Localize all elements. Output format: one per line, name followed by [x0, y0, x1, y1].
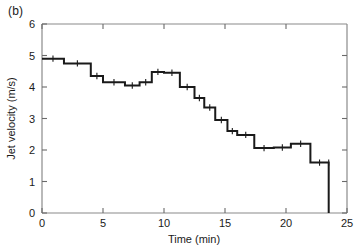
axes-frame [42, 24, 347, 213]
y-ticklabel-6: 6 [29, 18, 35, 30]
jet-velocity-chart: 0 1 2 3 4 5 6 0 5 10 15 20 25 Time (min)… [0, 0, 361, 251]
y-ticklabel-1: 1 [29, 176, 35, 188]
y-axis-ticks [42, 24, 347, 213]
y-ticklabel-5: 5 [29, 50, 35, 62]
y-ticklabel-0: 0 [29, 207, 35, 219]
y-axis-title: Jet velocity (m/s) [5, 77, 17, 160]
figure-panel: (b) [0, 0, 361, 251]
x-ticklabel-10: 10 [158, 217, 170, 229]
x-ticklabel-15: 15 [219, 217, 231, 229]
y-ticklabel-3: 3 [29, 113, 35, 125]
y-axis-tick-labels: 0 1 2 3 4 5 6 [29, 18, 35, 219]
x-ticklabel-0: 0 [39, 217, 45, 229]
x-axis-ticks [42, 24, 347, 213]
y-ticklabel-4: 4 [29, 81, 35, 93]
x-ticklabel-25: 25 [341, 217, 353, 229]
x-ticklabel-20: 20 [280, 217, 292, 229]
jet-velocity-step-line [42, 59, 329, 213]
x-axis-tick-labels: 0 5 10 15 20 25 [39, 217, 353, 229]
x-ticklabel-5: 5 [100, 217, 106, 229]
data-point-markers [53, 55, 329, 165]
y-ticklabel-2: 2 [29, 144, 35, 156]
x-axis-title: Time (min) [168, 233, 220, 245]
